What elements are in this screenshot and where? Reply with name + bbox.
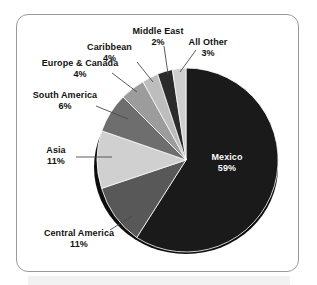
chart-page: Middle East 2% All Other 3% Caribbean 4%… — [0, 0, 317, 285]
slice-label-mexico: Mexico 59% — [199, 152, 255, 174]
slice-label-central-america-name: Central America — [44, 228, 114, 238]
slice-label-asia-pct: 11% — [39, 156, 73, 167]
slice-label-all-other-pct: 3% — [181, 48, 235, 59]
slice-label-central-america-pct: 11% — [31, 239, 127, 250]
leader-line-caribbean — [137, 62, 153, 82]
leader-line-middle-east — [164, 46, 168, 74]
slice-label-mexico-pct: 59% — [199, 163, 255, 174]
slice-label-asia-name: Asia — [46, 145, 65, 155]
slice-label-asia: Asia 11% — [39, 145, 73, 167]
slice-label-europe-canada: Europe & Canada 4% — [35, 58, 125, 80]
slice-label-central-america: Central America 11% — [31, 228, 127, 250]
pie-chart: Middle East 2% All Other 3% Caribbean 4%… — [0, 0, 317, 285]
slice-label-all-other-name: All Other — [189, 37, 228, 47]
slice-label-middle-east-name: Middle East — [132, 26, 183, 36]
slice-label-caribbean-name: Caribbean — [87, 42, 132, 52]
slice-label-south-america-name: South America — [33, 90, 97, 100]
slice-label-south-america-pct: 6% — [23, 101, 107, 112]
slice-label-europe-canada-name: Europe & Canada — [42, 58, 119, 68]
slice-label-europe-canada-pct: 4% — [35, 69, 125, 80]
slice-label-all-other: All Other 3% — [181, 37, 235, 59]
slice-label-south-america: South America 6% — [23, 90, 107, 112]
slice-label-mexico-name: Mexico — [211, 152, 242, 162]
